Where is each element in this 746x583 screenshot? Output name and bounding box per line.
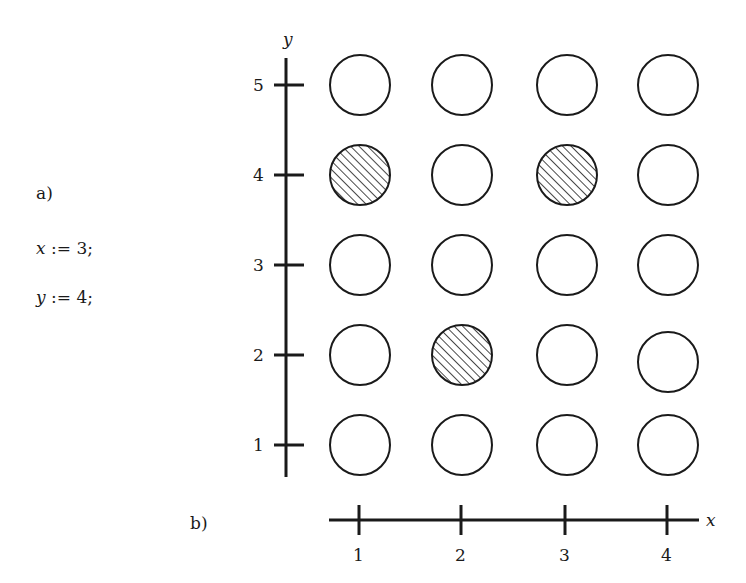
circle-4-2 (638, 332, 698, 392)
circle-3-1 (537, 415, 597, 475)
circle-4-4 (638, 145, 698, 205)
circle-4-1 (638, 415, 698, 475)
circle-2-1 (432, 415, 492, 475)
x-tick-4: 4 (661, 545, 672, 565)
circle-2-4 (432, 145, 492, 205)
y-tick-5: 5 (253, 75, 264, 95)
circle-3-4-hatched (537, 145, 597, 205)
circle-4-5 (638, 55, 698, 115)
circle-1-1 (330, 415, 390, 475)
y-tick-2: 2 (253, 345, 264, 365)
circle-1-3 (330, 235, 390, 295)
circle-3-2 (537, 325, 597, 385)
x-tick-1: 1 (353, 545, 364, 565)
circle-grid (330, 55, 698, 475)
coordinate-diagram: y 5 4 3 2 1 x 1 2 3 4 (0, 0, 746, 583)
circle-3-5 (537, 55, 597, 115)
y-tick-3: 3 (253, 255, 264, 275)
circle-1-4-hatched (330, 145, 390, 205)
y-tick-1: 1 (253, 435, 264, 455)
x-axis: x 1 2 3 4 (329, 505, 716, 565)
x-axis-name: x (706, 510, 716, 530)
y-tick-4: 4 (253, 165, 264, 185)
x-tick-3: 3 (559, 545, 570, 565)
circle-2-5 (432, 55, 492, 115)
circle-1-2 (330, 325, 390, 385)
y-axis-name: y (282, 29, 293, 49)
circle-1-5 (330, 55, 390, 115)
y-axis: y 5 4 3 2 1 (253, 29, 304, 477)
x-tick-2: 2 (455, 545, 466, 565)
circle-2-2-hatched (432, 325, 492, 385)
circle-2-3 (432, 235, 492, 295)
circle-3-3 (537, 235, 597, 295)
circle-4-3 (638, 235, 698, 295)
